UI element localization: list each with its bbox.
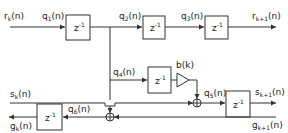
wire-gain-to-adder <box>189 80 197 99</box>
label-r-out: rk+1(n) <box>252 11 281 22</box>
label-q4: q4(n) <box>113 67 135 78</box>
gain-triangle-icon <box>177 73 189 87</box>
label-q6: q6(n) <box>68 104 90 115</box>
label-q1: q1(n) <box>42 11 64 22</box>
label-s-in: sk(n) <box>10 89 31 100</box>
label-q3: q3(n) <box>181 11 203 22</box>
label-q5: q5(n) <box>204 88 226 99</box>
label-g-out: gk(n) <box>10 121 32 132</box>
label-s-out: sk+1(n) <box>255 87 285 98</box>
lattice-block-diagram: z-1 z-1 z-1 z-1 z-1 z-1 rk(n) q1(n) q2(n… <box>0 0 288 133</box>
label-r-in: rk(n) <box>4 11 24 22</box>
label-gain: b(k) <box>176 60 194 70</box>
label-q2: q2(n) <box>119 11 141 22</box>
label-g-in: gk+1(n) <box>252 120 283 131</box>
